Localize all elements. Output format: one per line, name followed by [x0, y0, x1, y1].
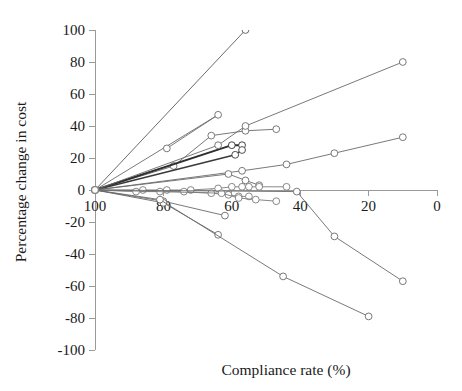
data-series-group — [92, 27, 407, 320]
data-point-marker — [283, 183, 290, 190]
data-point-marker — [331, 233, 338, 240]
x-tick-label: 0 — [433, 198, 441, 214]
data-point-marker — [239, 147, 246, 154]
data-point-marker — [181, 188, 188, 195]
y-axis-title: Percentage change in cost — [12, 101, 29, 262]
y-tick-label: -40 — [65, 246, 85, 262]
data-point-marker — [399, 59, 406, 66]
data-point-marker — [283, 161, 290, 168]
data-point-marker — [256, 183, 263, 190]
data-point-marker — [242, 177, 249, 184]
y-axis: 100806040200-20-40-60-80-100 — [58, 22, 96, 358]
data-point-marker — [246, 183, 253, 190]
data-point-marker — [163, 187, 170, 194]
y-tick-label: 20 — [70, 150, 85, 166]
data-point-marker — [228, 142, 235, 149]
x-tick-label: 20 — [361, 198, 376, 214]
data-point-marker — [157, 196, 164, 203]
data-point-marker — [273, 198, 280, 205]
y-tick-label: -60 — [65, 278, 85, 294]
y-tick-label: -80 — [65, 310, 85, 326]
data-point-marker — [163, 145, 170, 152]
y-tick-label: 0 — [78, 182, 86, 198]
data-series — [92, 111, 222, 193]
y-tick-label: 80 — [70, 54, 85, 70]
series-line — [95, 190, 403, 281]
data-point-marker — [331, 150, 338, 157]
data-series — [92, 59, 407, 194]
data-series — [92, 27, 249, 194]
series-line — [95, 115, 218, 190]
x-tick-label: 40 — [293, 198, 308, 214]
data-point-marker — [208, 132, 215, 139]
data-point-marker — [365, 313, 372, 320]
data-series — [92, 187, 407, 285]
data-point-marker — [242, 27, 249, 34]
data-point-marker — [252, 196, 259, 203]
data-point-marker — [235, 195, 242, 202]
x-tick-label: 100 — [84, 198, 107, 214]
y-tick-label: -20 — [65, 214, 85, 230]
data-point-marker — [239, 183, 246, 190]
data-point-marker — [399, 278, 406, 285]
data-point-marker — [242, 123, 249, 130]
percentage-change-in-cost-chart: 100806040200-20-40-60-80-100 10080604020… — [0, 0, 462, 391]
data-point-marker — [215, 142, 222, 149]
y-tick-label: 100 — [63, 22, 86, 38]
data-point-marker — [215, 111, 222, 118]
data-point-marker — [399, 134, 406, 141]
data-point-marker — [273, 126, 280, 133]
y-tick-label: 60 — [70, 86, 85, 102]
data-point-marker — [232, 151, 239, 158]
data-point-marker — [228, 183, 235, 190]
x-axis-title: Compliance rate (%) — [221, 361, 350, 379]
y-tick-label: 40 — [70, 118, 85, 134]
data-point-marker — [225, 171, 232, 178]
data-point-marker — [133, 188, 140, 195]
data-point-marker — [293, 188, 300, 195]
y-tick-label: -100 — [58, 342, 86, 358]
data-point-marker — [222, 212, 229, 219]
chart-container: 100806040200-20-40-60-80-100 10080604020… — [0, 0, 462, 391]
data-point-marker — [280, 273, 287, 280]
data-point-marker — [92, 187, 99, 194]
series-line — [95, 150, 242, 190]
data-point-marker — [239, 167, 246, 174]
